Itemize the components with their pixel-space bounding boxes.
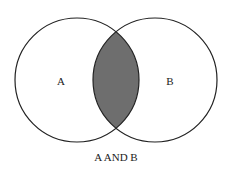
- intersection-region: [93, 18, 217, 142]
- set-b-label: B: [166, 75, 173, 87]
- caption: A AND B: [94, 151, 137, 163]
- venn-diagram: A B A AND B: [0, 0, 231, 169]
- set-a-label: A: [57, 75, 65, 87]
